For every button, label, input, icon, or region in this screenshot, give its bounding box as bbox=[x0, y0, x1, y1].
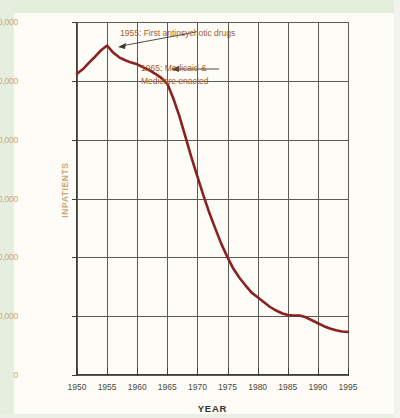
annotation-medicaid-line1: 1965: Medicaid & bbox=[141, 62, 209, 75]
inpatients-line bbox=[77, 46, 348, 333]
chart-page: INPATIENTS YEAR 0100,000200,000300,00040… bbox=[0, 0, 400, 418]
annotation-medicaid-line2: Medicare enacted bbox=[141, 75, 209, 88]
annotation-antipsychotic-drugs: 1955: First antipsychotic drugs bbox=[120, 27, 235, 40]
annotation-medicaid-medicare: 1965: Medicaid & Medicare enacted bbox=[141, 62, 209, 88]
